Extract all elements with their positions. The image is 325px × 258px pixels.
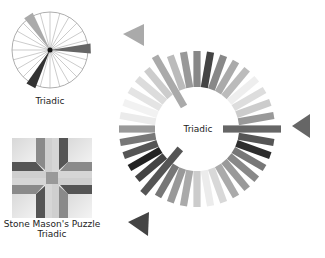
ring-center-label: Triadic <box>175 124 221 134</box>
triadic-color-ring <box>0 0 325 258</box>
